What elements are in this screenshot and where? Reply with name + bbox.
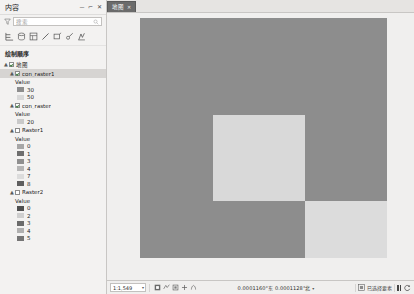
- legend-label: 0: [27, 205, 31, 211]
- list-by-drawing-order-icon[interactable]: [4, 31, 15, 42]
- legend-item: 50: [0, 94, 106, 102]
- raster-display: [140, 18, 387, 258]
- layer-name: con_raster: [22, 103, 51, 109]
- contents-pane-header: 内容 － ⌐ ✕: [0, 0, 106, 15]
- contents-pane: 内容 － ⌐ ✕: [0, 0, 107, 294]
- layer-name: Raster1: [22, 127, 43, 133]
- tree-row-map-root[interactable]: ▲ 地图: [0, 60, 106, 69]
- list-by-diagram-icon[interactable]: [76, 31, 87, 42]
- layer-name: 地图: [16, 61, 28, 69]
- pan-icon[interactable]: [189, 284, 197, 292]
- selected-features-label: 已选择要素: [367, 284, 392, 291]
- legend-label: 5: [27, 235, 31, 241]
- contents-toolbar: [0, 28, 106, 46]
- list-by-editing-icon[interactable]: [40, 31, 51, 42]
- selected-features-count-icon[interactable]: [358, 284, 365, 291]
- list-by-snapping-icon[interactable]: [52, 31, 63, 42]
- center-light-square: [213, 115, 305, 201]
- status-bar: 1:1,549 ▾: [107, 280, 414, 294]
- search-icon[interactable]: [93, 19, 99, 25]
- tree-row-con-raster1[interactable]: ▲ con_raster1: [0, 69, 106, 78]
- tree-row-con-raster[interactable]: ▲ con_raster: [0, 101, 106, 110]
- chevron-down-icon[interactable]: ▾: [312, 286, 314, 291]
- tab-close-icon[interactable]: ✕: [127, 4, 131, 10]
- measure-icon[interactable]: [162, 284, 170, 292]
- list-by-selection-icon[interactable]: [28, 31, 39, 42]
- map-canvas[interactable]: [107, 13, 414, 280]
- pin-icon[interactable]: ⌐: [86, 3, 95, 12]
- status-divider: [394, 284, 395, 292]
- selected-features-icon[interactable]: [153, 284, 161, 292]
- drawing-order-label: 绘制顺序: [0, 46, 106, 60]
- visibility-checkbox[interactable]: [15, 103, 20, 108]
- map-view: 地图 ✕ 1:1,549 ▾: [107, 0, 414, 294]
- status-nav-group: [149, 284, 197, 292]
- arcgis-pro-window: 内容 － ⌐ ✕: [0, 0, 414, 294]
- legend-swatch: [17, 166, 24, 171]
- zoom-in-icon[interactable]: [180, 284, 188, 292]
- contents-search-row: [0, 15, 106, 28]
- legend-swatch: [17, 181, 24, 186]
- tab-label: 地图: [112, 3, 124, 11]
- legend-swatch: [17, 87, 24, 92]
- layer-tree[interactable]: ▲ 地图 ▲ con_raster1 Value 30 50 ▲: [0, 60, 106, 294]
- layer-name: Raster2: [22, 189, 43, 195]
- value-header: Value: [0, 135, 106, 143]
- legend-swatch: [17, 228, 24, 233]
- legend-label: 2: [27, 213, 31, 219]
- chevron-down-icon[interactable]: ▾: [142, 285, 144, 290]
- legend-item: 8: [0, 180, 106, 188]
- visibility-checkbox[interactable]: [15, 128, 20, 133]
- status-right-group: 已选择要素: [355, 284, 411, 292]
- legend-label: 50: [27, 94, 34, 100]
- legend-swatch: [17, 206, 24, 211]
- visibility-checkbox[interactable]: [15, 190, 20, 195]
- visibility-checkbox[interactable]: [15, 71, 20, 76]
- legend-label: 0: [27, 143, 31, 149]
- visibility-checkbox[interactable]: [9, 62, 14, 67]
- coordinate-value: 0.0001160°东 0.0001128°北: [238, 285, 311, 291]
- value-header: Value: [0, 78, 106, 86]
- legend-swatch: [17, 174, 24, 179]
- list-by-data-source-icon[interactable]: [16, 31, 27, 42]
- tab-map[interactable]: 地图 ✕: [107, 1, 136, 12]
- legend-item: 5: [0, 235, 106, 243]
- legend-label: 4: [27, 166, 31, 172]
- list-by-labeling-icon[interactable]: [64, 31, 75, 42]
- legend-label: 3: [27, 158, 31, 164]
- pane-title-label: 内容: [5, 2, 19, 12]
- filter-icon[interactable]: [4, 18, 11, 25]
- legend-item: 0: [0, 205, 106, 213]
- close-icon[interactable]: ✕: [95, 3, 104, 12]
- pause-drawing-icon[interactable]: [171, 284, 179, 292]
- minimize-icon[interactable]: －: [77, 3, 86, 12]
- legend-label: 4: [27, 228, 31, 234]
- legend-swatch: [17, 221, 24, 226]
- layer-name: con_raster1: [22, 71, 54, 77]
- legend-swatch: [17, 151, 24, 156]
- legend-item: 30: [0, 86, 106, 94]
- tree-row-raster1[interactable]: ▲ Raster1: [0, 126, 106, 135]
- search-input[interactable]: [16, 19, 93, 25]
- refresh-icon[interactable]: [403, 284, 411, 292]
- legend-label: 30: [27, 87, 34, 93]
- legend-label: 20: [27, 119, 34, 125]
- legend-item: 4: [0, 227, 106, 235]
- legend-swatch: [17, 159, 24, 164]
- legend-item: 4: [0, 165, 106, 173]
- search-box[interactable]: [13, 17, 102, 26]
- status-divider: [355, 284, 356, 292]
- legend-label: 8: [27, 181, 31, 187]
- tree-row-raster2[interactable]: ▲ Raster2: [0, 188, 106, 197]
- legend-item: 1: [0, 150, 106, 158]
- scale-selector[interactable]: 1:1,549 ▾: [110, 283, 146, 292]
- bottom-right-light-square: [305, 201, 387, 258]
- legend-swatch: [17, 236, 24, 241]
- pause-drawing-button[interactable]: [397, 285, 401, 291]
- value-header: Value: [0, 110, 106, 118]
- legend-label: 3: [27, 220, 31, 226]
- legend-item: 3: [0, 158, 106, 166]
- legend-item: 20: [0, 118, 106, 126]
- legend-swatch: [17, 213, 24, 218]
- legend-swatch: [17, 144, 24, 149]
